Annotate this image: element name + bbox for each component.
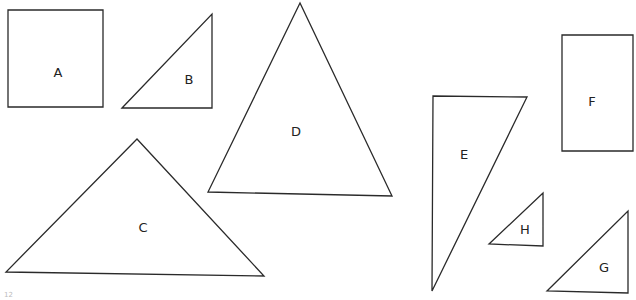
shape-g: G	[547, 211, 628, 293]
label-b: B	[185, 72, 194, 87]
shape-a: A	[8, 10, 103, 107]
triangle-d	[208, 3, 392, 196]
square-a	[8, 10, 103, 107]
triangle-e	[432, 96, 527, 291]
triangle-g	[547, 211, 628, 293]
label-f: F	[588, 94, 595, 109]
shape-b: B	[122, 14, 212, 108]
shape-h: H	[489, 193, 543, 246]
label-g: G	[599, 260, 609, 275]
label-a: A	[54, 65, 63, 80]
label-e: E	[460, 147, 468, 162]
shapes-figure: A B C D E F G H 12	[0, 0, 636, 300]
page-mark: 12	[4, 291, 13, 299]
triangle-b	[122, 14, 212, 108]
label-c: C	[138, 220, 147, 235]
triangle-h	[489, 193, 543, 246]
shape-f: F	[562, 35, 633, 151]
shape-e: E	[432, 96, 527, 291]
label-h: H	[520, 222, 530, 237]
label-d: D	[291, 124, 301, 139]
rectangle-f	[562, 35, 633, 151]
shape-d: D	[208, 3, 392, 196]
